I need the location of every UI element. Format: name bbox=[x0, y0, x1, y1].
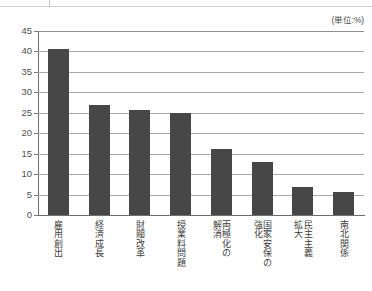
y-axis-tick-labels: 454035302520151050 bbox=[0, 31, 34, 215]
x-axis-label-column: 民主主義 bbox=[303, 220, 312, 258]
y-axis-tick-mark bbox=[34, 113, 38, 114]
x-axis-label-column: 国家安保の bbox=[262, 220, 271, 267]
x-axis-label-column: 財閥改革 bbox=[135, 220, 144, 258]
gridline bbox=[38, 195, 364, 196]
y-axis-tick-mark bbox=[34, 92, 38, 93]
bar bbox=[252, 162, 273, 215]
y-axis-tick-label: 5 bbox=[0, 190, 32, 200]
y-axis-tick-label: 20 bbox=[0, 128, 32, 138]
y-axis-tick-mark bbox=[34, 72, 38, 73]
unit-caption: (単位:%) bbox=[332, 13, 364, 25]
y-axis-tick-mark bbox=[34, 154, 38, 155]
gridline bbox=[38, 31, 364, 32]
x-axis-label-column: 経済成長 bbox=[95, 220, 104, 258]
gridline bbox=[38, 51, 364, 52]
y-axis-tick-mark bbox=[34, 51, 38, 52]
y-axis-tick-label: 0 bbox=[0, 210, 32, 220]
bar bbox=[129, 110, 150, 215]
scan-artifact-line bbox=[0, 6, 372, 7]
gridline bbox=[38, 133, 364, 134]
bar bbox=[89, 105, 110, 215]
bar-chart: 454035302520151050 雇用創出経済成長財閥改革授業料問題両極化の… bbox=[0, 28, 372, 291]
x-axis-tick-label: 国家安保の強化 bbox=[247, 220, 277, 267]
plot-area bbox=[38, 31, 364, 215]
y-axis-tick-mark bbox=[34, 31, 38, 32]
x-axis-label-column: 拡大 bbox=[294, 220, 303, 239]
x-axis-line bbox=[38, 215, 365, 216]
x-axis-label-column: 強化 bbox=[253, 220, 262, 239]
y-axis-tick-label: 25 bbox=[0, 108, 32, 118]
x-axis-tick-label: 両極化の解消 bbox=[206, 220, 236, 258]
x-axis-label-column: 南北関係 bbox=[339, 220, 348, 258]
y-axis-tick-label: 45 bbox=[0, 26, 32, 36]
x-axis-tick-label: 南北関係 bbox=[329, 220, 359, 258]
bar bbox=[48, 49, 69, 215]
y-axis-tick-label: 15 bbox=[0, 149, 32, 159]
x-axis-label-column: 授業料問題 bbox=[176, 220, 185, 267]
x-axis-label-column: 両極化の bbox=[221, 220, 230, 258]
y-axis-tick-mark bbox=[34, 174, 38, 175]
gridline bbox=[38, 92, 364, 93]
y-axis-tick-label: 35 bbox=[0, 67, 32, 77]
gridline bbox=[38, 154, 364, 155]
x-axis-tick-labels: 雇用創出経済成長財閥改革授業料問題両極化の解消国家安保の強化民主主義拡大南北関係 bbox=[38, 220, 364, 291]
gridline bbox=[38, 174, 364, 175]
y-axis-tick-label: 10 bbox=[0, 169, 32, 179]
x-axis-tick-label: 財閥改革 bbox=[125, 220, 155, 258]
y-axis-tick-mark bbox=[34, 133, 38, 134]
x-axis-tick-label: 民主主義拡大 bbox=[288, 220, 318, 258]
x-axis-tick-label: 授業料問題 bbox=[166, 220, 196, 267]
bar bbox=[211, 149, 232, 215]
x-axis-label-column: 解消 bbox=[212, 220, 221, 239]
gridline bbox=[38, 72, 364, 73]
scan-artifact-tick bbox=[49, 0, 50, 7]
bar bbox=[292, 187, 313, 215]
y-axis-tick-mark bbox=[34, 215, 38, 216]
y-axis-tick-label: 30 bbox=[0, 87, 32, 97]
x-axis-tick-label: 雇用創出 bbox=[43, 220, 73, 258]
bar bbox=[170, 113, 191, 215]
y-axis-tick-mark bbox=[34, 195, 38, 196]
x-axis-label-column: 雇用創出 bbox=[54, 220, 63, 258]
gridline bbox=[38, 113, 364, 114]
bar bbox=[333, 192, 354, 215]
y-axis-tick-label: 40 bbox=[0, 46, 32, 56]
x-axis-tick-label: 経済成長 bbox=[84, 220, 114, 258]
